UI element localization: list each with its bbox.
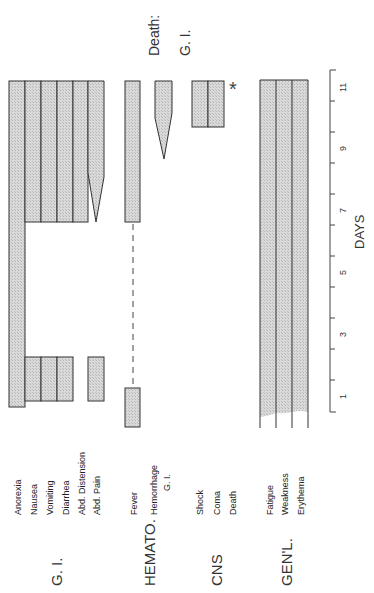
group-labels: G. I. HEMATO. CNS GEN'L. — [48, 519, 295, 586]
label-hemorrhage-gi: G. I. — [162, 474, 172, 491]
label-death: Death — [228, 491, 238, 515]
bar-abd-pain-early — [88, 357, 104, 401]
axis-title: DAYS — [352, 214, 367, 249]
bar-anorexia — [9, 81, 25, 407]
bar-coma — [208, 81, 224, 127]
label-nausea: Nausea — [29, 484, 39, 515]
bar-hemorrhage-gi — [155, 81, 172, 159]
label-abd-pain: Abd. Pain — [92, 476, 102, 515]
bar-abd-distension — [73, 81, 88, 222]
label-diarrhea: Diarrhea — [61, 480, 71, 515]
label-fever: Fever — [129, 492, 139, 515]
death-cause-label: G. I. — [177, 30, 193, 56]
bar-genl-fill — [260, 80, 308, 417]
genl-bars — [260, 80, 308, 428]
tick-label-5: 5 — [338, 270, 348, 275]
bar-diarrhea-late — [57, 81, 73, 222]
label-erythema: Erythema — [296, 476, 306, 515]
days-axis: 1 3 5 7 9 11 DAYS — [330, 70, 367, 412]
symptom-timeline-diagram: Death: G. I. * — [0, 0, 374, 593]
label-anorexia: Anorexia — [13, 479, 23, 515]
hemato-bars — [125, 81, 172, 427]
death-label: Death: — [146, 15, 162, 56]
tick-label-3: 3 — [338, 332, 348, 337]
label-fatigue: Fatigue — [265, 485, 275, 515]
group-label-gi: G. I. — [48, 558, 65, 586]
bar-abd-pain-late — [88, 81, 104, 222]
label-shock: Shock — [195, 489, 205, 515]
label-abd-distension: Abd. Distension — [77, 452, 87, 515]
tick-label-7: 7 — [338, 208, 348, 213]
gi-bars — [9, 81, 104, 407]
bar-fever-late — [125, 81, 140, 222]
bar-fever-early — [125, 388, 140, 427]
symptom-labels: Anorexia Nausea Vomiting Diarrhea Abd. D… — [13, 452, 306, 515]
tick-label-1: 1 — [338, 394, 348, 399]
label-weakness: Weakness — [280, 473, 290, 515]
bar-vomiting-late — [41, 81, 57, 222]
tick-label-9: 9 — [338, 146, 348, 151]
bar-vomiting-early — [41, 357, 57, 401]
label-coma: Coma — [212, 491, 222, 515]
cns-bars: * — [192, 78, 237, 127]
tick-label-11: 11 — [338, 83, 348, 92]
group-label-genl: GEN'L. — [278, 538, 295, 586]
bar-nausea-late — [25, 81, 41, 222]
bar-nausea-early — [25, 357, 41, 401]
bar-diarrhea-early — [57, 357, 73, 401]
death-asterisk: * — [229, 78, 237, 100]
label-vomiting: Vomiting — [45, 480, 55, 515]
group-label-hemato: HEMATO. — [141, 519, 158, 586]
bar-shock — [192, 81, 208, 127]
group-label-cns: CNS — [208, 554, 225, 586]
label-hemorrhage: Hemorrhage — [149, 465, 159, 515]
